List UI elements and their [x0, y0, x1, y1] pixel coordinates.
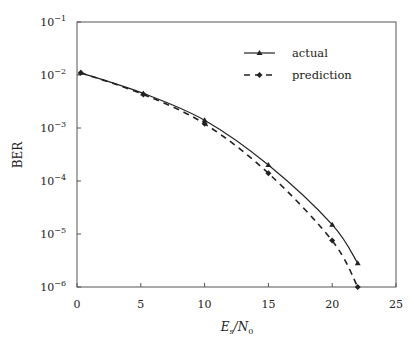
y-tick-label: 10−1: [40, 14, 66, 29]
y-axis-label: BER: [11, 141, 25, 169]
series-line-actual: [81, 73, 358, 263]
diamond-marker-icon: [355, 284, 361, 290]
x-tick-label: 15: [261, 298, 275, 311]
y-tick-label: 10−5: [40, 226, 66, 241]
ber-chart: 0510152025 10−110−210−310−410−510−6 actu…: [0, 0, 415, 347]
x-axis-label: Es/N0: [220, 320, 254, 336]
y-tick-label: 10−6: [40, 279, 66, 294]
series-line-prediction: [81, 73, 358, 287]
legend: actual prediction: [244, 46, 352, 82]
x-tick-label: 0: [74, 298, 81, 311]
legend-prediction-diamond-icon: [257, 72, 263, 78]
legend-actual-label: actual: [292, 46, 328, 60]
x-tick-label: 5: [137, 298, 144, 311]
y-tick-label: 10−4: [40, 173, 66, 188]
x-tick-label: 20: [325, 298, 339, 311]
y-tick-label: 10−3: [40, 120, 66, 135]
x-tick-label: 10: [198, 298, 212, 311]
data-series: [78, 70, 361, 290]
x-tick-label: 25: [389, 298, 403, 311]
triangle-marker-icon: [355, 260, 361, 265]
y-tick-label: 10−2: [40, 67, 66, 82]
legend-prediction-label: prediction: [292, 68, 352, 82]
y-axis-ticks: 10−110−210−310−410−510−6: [40, 14, 81, 294]
